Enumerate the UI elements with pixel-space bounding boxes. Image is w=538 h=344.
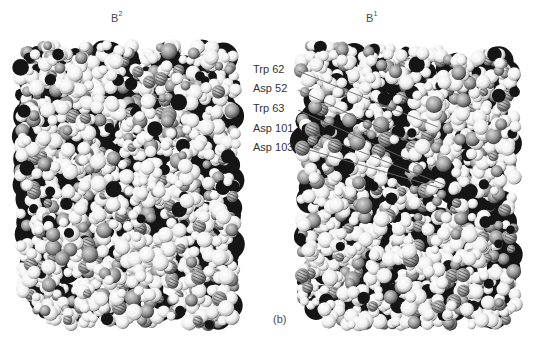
residue-label-trp63: Trp 63 — [253, 102, 284, 115]
panel-label: (b) — [273, 313, 286, 325]
molecule-canvas — [0, 0, 538, 344]
residue-label-asp101: Asp 101 — [253, 122, 293, 135]
residue-label-trp62: Trp 62 — [253, 63, 284, 76]
molecule-b1-view — [290, 40, 523, 331]
view-label-b1: B1 — [366, 11, 378, 24]
lysozyme-figure: B2 B1 Trp 62 Asp 52 Trp 63 Asp 101 Asp 1… — [0, 0, 538, 344]
view-label-b2: B2 — [111, 11, 123, 24]
residue-label-asp103: Asp 103 — [253, 141, 293, 154]
residue-label-asp52: Asp 52 — [253, 82, 287, 95]
molecule-b2-view — [12, 39, 245, 331]
